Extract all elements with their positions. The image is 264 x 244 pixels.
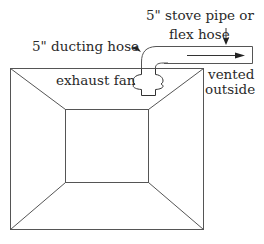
label-ducting-hose: 5" ducting hose — [32, 38, 139, 54]
hood-diagonal-br — [149, 183, 204, 230]
label-vented: vented — [207, 66, 255, 82]
exhaust-fan-shape — [133, 69, 163, 96]
label-stove-pipe-line1: 5" stove pipe or — [146, 7, 254, 23]
label-exhaust-fan: exhaust fan — [56, 72, 136, 88]
label-outside: outside — [205, 81, 255, 97]
hood-inner-frame — [66, 110, 149, 183]
ventilation-diagram: 5" stove pipe or flex hose 5" ducting ho… — [0, 0, 264, 244]
label-stove-pipe-line2: flex hose — [169, 26, 230, 42]
hood-diagonal-bl — [11, 183, 66, 230]
flow-arrow-head-icon — [235, 53, 245, 59]
